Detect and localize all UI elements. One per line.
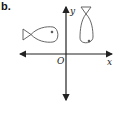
fish-horizontal-shape <box>23 27 58 42</box>
y-axis-label: y <box>70 6 75 16</box>
fish-vertical-shape <box>80 7 93 43</box>
x-axis-label: x <box>107 57 112 67</box>
origin-label: O <box>57 56 64 66</box>
